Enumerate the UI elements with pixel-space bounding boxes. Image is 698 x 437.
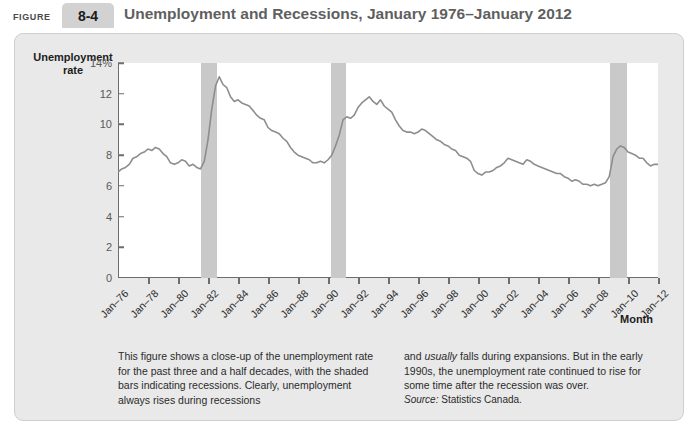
caption-text-left: This figure shows a close-up of the unem… [118,349,382,407]
source-label: Source: [404,394,438,405]
source-value: Statistics Canada. [438,394,521,405]
caption-right-prefix: and [404,350,424,362]
figure-header: FIGURE 8-4 Unemployment and Recessions, … [0,0,698,31]
caption-text-right: and usually falls during expansions. But… [404,349,668,393]
source-line: Source: Statistics Canada. [404,394,668,405]
caption-column-left: This figure shows a close-up of the unem… [118,349,382,407]
figure-title: Unemployment and Recessions, January 197… [124,5,572,23]
figure-word-label: FIGURE [13,12,51,22]
caption-column-right: and usually falls during expansions. But… [404,349,668,407]
figure-caption: This figure shows a close-up of the unem… [118,349,668,407]
figure-number-badge: 8-4 [62,3,114,28]
caption-right-emphasis: usually [424,350,457,362]
